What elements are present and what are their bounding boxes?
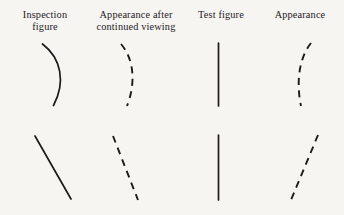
- tilted-stimulus-row: [35, 135, 318, 200]
- aftereffect-curve-dashed-icon: [121, 44, 133, 106]
- stimulus-panel: [0, 0, 344, 215]
- aftereffect-line-tilted-dashed-opposite-icon: [291, 135, 318, 200]
- curved-stimulus-row: [43, 43, 312, 106]
- aftereffect-line-tilted-dashed-icon: [113, 136, 138, 200]
- inspection-line-tilted-solid-icon: [35, 136, 71, 199]
- figural-aftereffect-figure: Inspection figure Appearance after conti…: [0, 0, 344, 215]
- aftereffect-line-dashed-curved-icon: [299, 43, 311, 106]
- inspection-curve-solid-icon: [43, 44, 61, 106]
